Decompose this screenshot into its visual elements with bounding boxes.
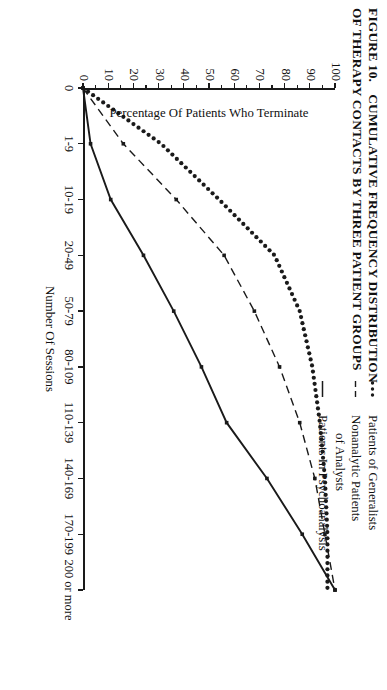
x-axis-title: Number Of Sessions [42, 286, 57, 392]
dashed-line-icon [348, 380, 365, 410]
data-point-marker [278, 365, 282, 369]
data-point-marker [172, 309, 176, 313]
data-point-marker [200, 365, 204, 369]
figure-title-line-2: OF THERAPY CONTACTS BY THREE PATIENT GRO… [351, 8, 366, 371]
y-tick-label: 20 [126, 69, 141, 82]
x-tick-label: 170-199 [61, 513, 76, 555]
data-point-marker [323, 532, 327, 536]
page-rotation-wrapper: FIGURE 10.CUMULATIVE FREQUENCY DISTRIBUT… [0, 0, 387, 690]
y-tick-label: 80 [277, 69, 292, 82]
data-point-marker [298, 421, 302, 425]
dotted-line-icon [365, 380, 382, 410]
legend-label-generalists: Patients of Generalists [365, 415, 382, 530]
data-point-marker [222, 254, 226, 258]
figure-title-line-1: CUMULATIVE FREQUENCY DISTRIBUTION [366, 94, 381, 383]
data-point-marker [253, 309, 257, 313]
data-point-marker [333, 588, 337, 592]
x-tick-label: 20-49 [61, 241, 76, 270]
data-point-marker [225, 421, 229, 425]
x-tick-label: 0 [61, 85, 76, 91]
data-point-marker [174, 198, 178, 202]
y-tick-label: 10 [101, 69, 116, 82]
y-tick-label: 60 [227, 69, 242, 82]
data-point-marker [313, 477, 317, 481]
x-tick-label: 200 or more [61, 559, 76, 620]
plot-area: 0102030405060708090100 01-910-1920-4950-… [83, 88, 335, 590]
figure-number: FIGURE 10. [366, 8, 381, 82]
legend-item-generalists: Patients of Generalists [365, 380, 382, 551]
data-point-marker [81, 86, 85, 90]
figure-canvas: FIGURE 10.CUMULATIVE FREQUENCY DISTRIBUT… [0, 0, 387, 690]
y-tick-label: 90 [302, 69, 317, 82]
series-solid [81, 86, 337, 592]
x-tick-label: 50-79 [61, 297, 76, 326]
data-point-marker [89, 142, 93, 146]
y-tick-label: 70 [252, 69, 267, 82]
data-point-marker [300, 532, 304, 536]
legend-label-nonanalytic-line1: Nonanalytic Patients [350, 415, 364, 521]
y-tick-label: 0 [76, 75, 91, 81]
y-tick-label: 50 [202, 69, 217, 82]
y-tick-label: 40 [176, 69, 191, 82]
x-tick-label: 110-139 [61, 402, 76, 443]
x-tick-label: 140-169 [61, 458, 76, 500]
y-axis-title: Percentage Of Patients Who Terminate [109, 106, 308, 121]
data-point-marker [265, 477, 269, 481]
x-tick-label: 80-109 [61, 349, 76, 384]
data-point-marker [142, 254, 146, 258]
data-series-layer [83, 88, 335, 590]
y-tick-label: 100 [328, 62, 343, 81]
data-point-marker [122, 142, 126, 146]
data-point-marker [109, 198, 113, 202]
x-tick-label: 1-9 [61, 135, 76, 152]
series-dashed [81, 86, 337, 592]
legend-item-nonanalytic: Nonanalytic Patients of Analysts [332, 380, 365, 551]
series-dotted [81, 86, 330, 590]
y-tick-label: 30 [151, 69, 166, 82]
x-tick-label: 10-19 [61, 185, 76, 214]
